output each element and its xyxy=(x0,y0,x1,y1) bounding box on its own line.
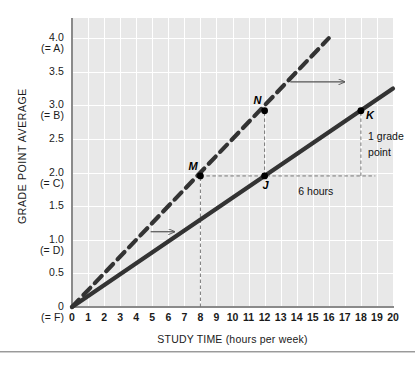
data-point-markers xyxy=(197,107,364,179)
point-label-K: K xyxy=(366,109,374,121)
point-label-N: N xyxy=(254,94,262,106)
plot-lines-layer xyxy=(0,0,415,365)
series-line-original-line xyxy=(72,89,393,307)
six-hours-label: 6 hours xyxy=(298,185,333,197)
chart-figure: 4.0(= A)3.53.0(= B)2.52.0(= C)1.51.0(= D… xyxy=(0,0,415,365)
data-point-M xyxy=(197,173,204,180)
one-grade-point-line2: point xyxy=(368,146,391,158)
data-series xyxy=(72,38,393,307)
one-grade-point-line1: 1 grade xyxy=(368,130,404,142)
footer-divider-shadow xyxy=(0,352,415,353)
data-point-N xyxy=(261,107,268,114)
point-label-M: M xyxy=(188,160,197,172)
point-label-J: J xyxy=(263,179,269,191)
shift-arrows xyxy=(151,82,345,232)
data-point-K xyxy=(358,107,365,114)
guide-lines xyxy=(200,111,375,307)
